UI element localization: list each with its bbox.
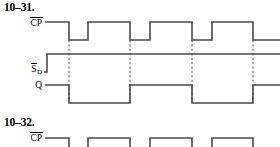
edge-marker-group <box>69 40 253 103</box>
timing-diagram-page: 10–31. CP SD Q 10–32. CP <box>0 0 280 147</box>
waveform-trace-2-cp-bar <box>45 138 280 147</box>
waveform-canvas <box>0 0 280 147</box>
waveform-trace-q <box>45 85 280 103</box>
waveform-trace-s-d-bar <box>44 54 280 72</box>
trace-group <box>44 22 280 147</box>
waveform-trace-cp-bar <box>45 22 280 40</box>
